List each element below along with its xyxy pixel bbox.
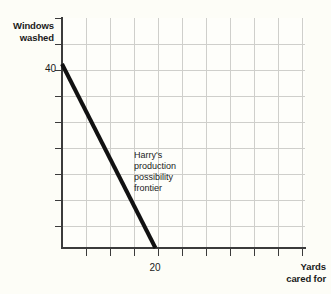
y-axis-line [61,17,63,249]
gridline-horizontal [62,70,305,71]
plot-area [62,18,305,248]
x-axis-tick [206,249,207,256]
x-axis-title-line-2: cared for [231,273,326,285]
ppf-annotation-line-4: frontier [134,183,176,194]
gridline-vertical [158,18,159,248]
x-axis-tick [158,249,159,256]
y-axis-title-line-2: washed [0,32,54,44]
x-axis-line [61,247,306,249]
ppf-annotation-line-1: Harry's [134,150,176,161]
y-axis-tick [55,96,62,97]
x-axis-tick [110,249,111,256]
y-axis-tick [55,148,62,149]
y-axis-tick [55,174,62,175]
x-axis-tick-label-20: 20 [133,262,177,273]
y-axis-tick [55,226,62,227]
x-axis-tick [278,249,279,256]
y-axis-tick [55,18,62,19]
gridline-horizontal [62,226,305,227]
x-axis-tick [230,249,231,256]
ppf-annotation-line-2: production [134,161,176,172]
gridline-horizontal [62,148,305,149]
y-axis-tick [55,122,62,123]
gridline-vertical [86,18,87,248]
ppf-annotation: Harry's production possibility frontier [134,150,176,194]
y-axis-tick [55,200,62,201]
ppf-annotation-line-3: possibility [134,172,176,183]
x-axis-tick [86,249,87,256]
gridline-vertical [134,18,135,248]
gridline-horizontal [62,122,305,123]
gridline-vertical [302,18,303,248]
gridline-horizontal [62,174,305,175]
chart-figure: Windows washed Yards cared for 40 20 Har… [0,0,331,294]
y-axis-tick [55,70,62,71]
x-axis-tick [182,249,183,256]
x-axis-title-line-1: Yards [231,261,326,273]
x-axis-tick [302,249,303,256]
gridline-vertical [254,18,255,248]
y-axis-title-line-1: Windows [0,20,54,32]
x-axis-tick [134,249,135,256]
gridline-vertical [278,18,279,248]
gridline-horizontal [62,96,305,97]
y-axis-title: Windows washed [0,20,54,43]
gridline-horizontal [62,44,305,45]
gridline-vertical [230,18,231,248]
y-axis-tick-label-40: 40 [14,63,56,74]
y-axis-tick [55,44,62,45]
gridline-vertical [206,18,207,248]
gridline-vertical [110,18,111,248]
gridline-horizontal [62,200,305,201]
gridline-vertical [182,18,183,248]
x-axis-tick [254,249,255,256]
x-axis-title: Yards cared for [231,261,326,284]
